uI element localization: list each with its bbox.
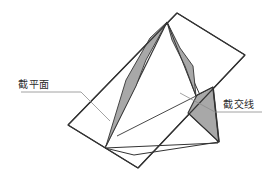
geometry-drawing — [0, 0, 268, 182]
label-intersection-line: 截交线 — [223, 99, 255, 110]
label-cutting-plane: 截平面 — [18, 79, 50, 90]
figure-canvas: 截平面 截交线 — [0, 0, 268, 182]
